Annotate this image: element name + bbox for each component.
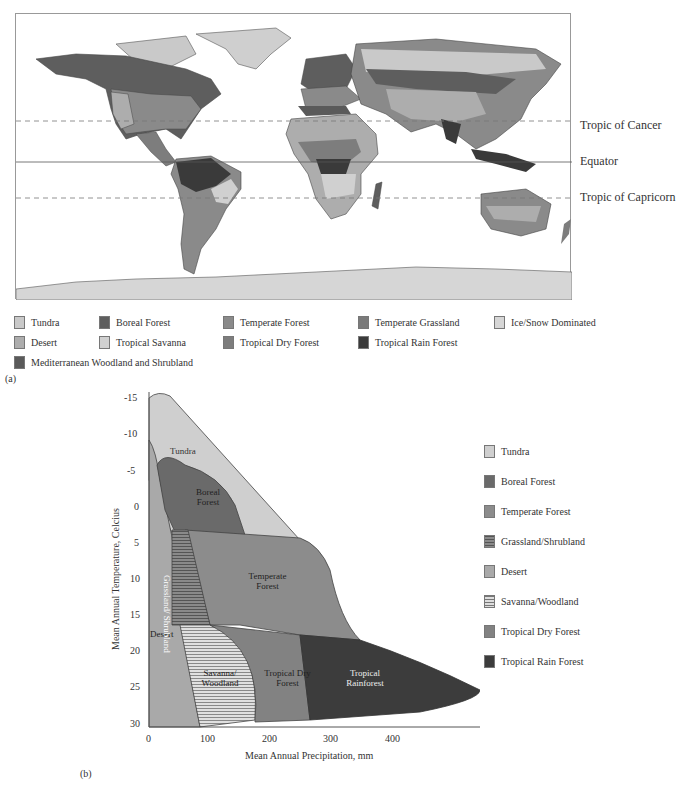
y-tick: 30 [130, 718, 140, 729]
y-tick: 0 [134, 501, 139, 512]
world-biome-map [15, 13, 571, 299]
x-tick: 100 [200, 733, 215, 744]
y-tick: 10 [130, 573, 140, 584]
region-label-savanna: Savanna/ Woodland [195, 668, 245, 688]
x-tick: 300 [323, 733, 338, 744]
y-tick: 20 [130, 645, 140, 656]
swatch-icon [484, 595, 495, 608]
map-legend-boreal: Boreal Forest [99, 316, 170, 329]
region-label-grassland: Grassland/ Shrubland [162, 575, 172, 653]
swatch-icon [99, 336, 110, 349]
chart-legend-tundra: Tundra [484, 445, 530, 458]
swatch-icon [484, 565, 495, 578]
x-tick: 400 [385, 733, 400, 744]
chart-legend-tropical-dry: Tropical Dry Forest [484, 625, 580, 638]
region-label-temperate: Temperate Forest [240, 571, 295, 591]
equator-label: Equator [580, 154, 618, 169]
map-legend-mediterranean: Mediterranean Woodland and Shrubland [14, 356, 193, 369]
swatch-icon [484, 535, 495, 548]
swatch-icon [484, 505, 495, 518]
swatch-icon [358, 336, 369, 349]
chart-legend-savanna: Savanna/Woodland [484, 595, 579, 608]
region-label-tundra: Tundra [170, 446, 196, 456]
map-legend-tropical-dry-forest: Tropical Dry Forest [223, 336, 319, 349]
map-legend-tropical-rain-forest: Tropical Rain Forest [358, 336, 457, 349]
y-tick: 15 [130, 609, 140, 620]
map-legend-desert: Desert [14, 336, 57, 349]
y-axis-title: Mean Annual Temperature, Celcius [110, 508, 121, 650]
swatch-icon [99, 316, 110, 329]
map-legend-ice-snow: Ice/Snow Dominated [494, 316, 596, 329]
y-tick: -10 [124, 428, 137, 439]
swatch-icon [484, 445, 495, 458]
swatch-icon [14, 356, 25, 369]
map-legend-tundra: Tundra [14, 316, 60, 329]
chart-legend-boreal: Boreal Forest [484, 475, 555, 488]
swatch-icon [484, 475, 495, 488]
swatch-icon [484, 655, 495, 668]
x-tick: 200 [262, 733, 277, 744]
swatch-icon [223, 316, 234, 329]
region-label-rainforest: Tropical Rainforest [335, 668, 395, 688]
y-tick: -5 [127, 465, 135, 476]
chart-legend-desert: Desert [484, 565, 527, 578]
region-label-tropical-dry: Tropical Dry Forest [260, 668, 315, 688]
swatch-icon [484, 625, 495, 638]
chart-legend-temperate: Temperate Forest [484, 505, 571, 518]
y-tick: 5 [134, 537, 139, 548]
swatch-icon [494, 316, 505, 329]
region-label-boreal: Boreal Forest [188, 487, 228, 507]
chart-legend-grassland: Grassland/Shrubland [484, 535, 585, 548]
panel-label-b: (b) [80, 768, 92, 779]
map-legend-temperate-forest: Temperate Forest [223, 316, 310, 329]
map-legend-tropical-savanna: Tropical Savanna [99, 336, 186, 349]
swatch-icon [14, 316, 25, 329]
y-tick: 25 [130, 681, 140, 692]
map-legend-temperate-grassland: Temperate Grassland [358, 316, 460, 329]
swatch-icon [223, 336, 234, 349]
world-map-graphic [16, 14, 572, 300]
swatch-icon [14, 336, 25, 349]
chart-legend-rainforest: Tropical Rain Forest [484, 655, 583, 668]
tropic-of-cancer-label: Tropic of Cancer [580, 118, 662, 133]
y-tick: -15 [124, 392, 137, 403]
swatch-icon [358, 316, 369, 329]
x-tick: 0 [146, 733, 151, 744]
tropic-of-capricorn-label: Tropic of Capricorn [580, 190, 676, 205]
x-axis-title: Mean Annual Precipitation, mm [245, 750, 373, 761]
